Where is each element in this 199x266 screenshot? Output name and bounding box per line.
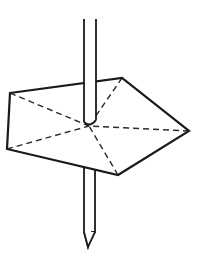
pentagon-shape <box>7 78 189 175</box>
pin-upper <box>84 19 96 125</box>
pinned-pentagon-diagram <box>0 0 199 266</box>
pin-lower <box>84 165 95 247</box>
